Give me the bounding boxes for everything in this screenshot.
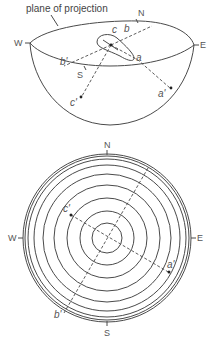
bottom-point-a-prime bbox=[168, 271, 171, 274]
caption-leader-line bbox=[51, 15, 58, 26]
line-to-c-prime bbox=[82, 45, 111, 96]
west-label-bottom: W bbox=[8, 233, 17, 243]
south-label-bottom: S bbox=[104, 328, 110, 338]
line-to-b bbox=[111, 26, 152, 45]
hemisphere-figure: plane of projection W E N S a b c a' bbox=[14, 3, 206, 125]
label-b-prime: b' bbox=[60, 56, 69, 67]
bottom-point-c-prime bbox=[70, 214, 73, 217]
label-b: b bbox=[124, 23, 130, 34]
bottom-label-a-prime: a' bbox=[167, 259, 176, 270]
west-label: W bbox=[14, 38, 23, 48]
c-prime-a-prime-line bbox=[71, 215, 170, 273]
bottom-label-b-prime: b' bbox=[54, 309, 63, 320]
stereographic-projection-diagram: plane of projection W E N S a b c a' bbox=[0, 0, 213, 351]
east-label-bottom: E bbox=[197, 233, 203, 243]
north-label-bottom: N bbox=[104, 140, 111, 150]
line-to-b-prime bbox=[64, 45, 111, 66]
label-a: a bbox=[136, 52, 142, 63]
north-label: N bbox=[138, 8, 145, 18]
point-c-prime bbox=[80, 96, 83, 99]
point-a-prime bbox=[170, 87, 173, 90]
label-c: c bbox=[112, 24, 117, 35]
label-a-prime: a' bbox=[158, 88, 167, 99]
plane-of-projection-caption: plane of projection bbox=[26, 3, 108, 14]
projection-circles-figure: N S W E c' a' b' bbox=[8, 140, 203, 338]
south-label: S bbox=[77, 70, 83, 80]
east-label: E bbox=[200, 40, 206, 50]
hemisphere-bowl bbox=[30, 43, 194, 125]
center-point bbox=[110, 44, 113, 47]
south-tick bbox=[84, 66, 86, 70]
bottom-label-c-prime: c' bbox=[63, 203, 71, 214]
label-c-prime: c' bbox=[70, 97, 78, 108]
